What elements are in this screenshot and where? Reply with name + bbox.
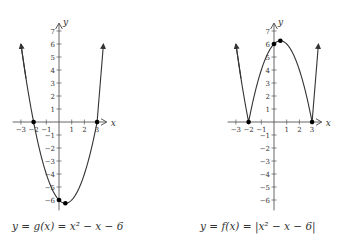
x-tick-label: −3	[16, 126, 26, 134]
x-axis-label: x	[111, 118, 116, 128]
marked-point-vertex	[63, 201, 68, 206]
curve-arrow-right	[312, 44, 318, 122]
y-tick-label: −1	[260, 132, 270, 140]
curve-arrow-left	[21, 44, 26, 78]
y-tick-label: 6	[51, 41, 56, 49]
y-tick-label: −1	[45, 132, 55, 140]
y-tick-label: 2	[266, 93, 270, 101]
y-tick-label: 5	[51, 54, 55, 62]
marked-point-y-intercept	[57, 198, 62, 203]
y-tick-label: −2	[45, 145, 55, 153]
x-tick-label: −2	[28, 126, 38, 134]
x-tick-label: −2	[243, 126, 253, 134]
marked-point-root	[31, 120, 36, 125]
marked-point-root	[95, 120, 100, 125]
y-axis-label: y	[62, 17, 69, 27]
marked-point-root	[310, 120, 315, 125]
y-tick-label: 3	[51, 80, 55, 88]
y-tick-label: −6	[260, 197, 271, 205]
x-tick-label: −3	[231, 126, 241, 134]
y-tick-label: 4	[266, 67, 271, 75]
function-graphs: −3−2−11237654321−1−2−3−4−5−6xy −3−2−1123…	[0, 0, 339, 245]
graph-g-of-x: −3−2−11237654321−1−2−3−4−5−6xy	[13, 17, 116, 210]
y-tick-label: 1	[266, 106, 270, 114]
caption-f-of-x: y = f(x) = |x² − x − 6|	[200, 220, 316, 232]
y-tick-label: 6	[266, 41, 271, 49]
marked-point-local-max	[278, 38, 283, 43]
x-tick-label: 2	[82, 126, 86, 134]
y-tick-label: 3	[266, 80, 270, 88]
y-tick-label: −6	[45, 197, 56, 205]
y-tick-label: −3	[45, 158, 55, 166]
y-tick-label: 7	[266, 28, 270, 36]
y-tick-label: 2	[51, 93, 55, 101]
marked-point-y-intercept	[272, 42, 277, 47]
x-axis-label: x	[326, 118, 331, 128]
x-tick-label: 2	[297, 126, 301, 134]
y-axis-label: y	[277, 17, 284, 27]
x-tick-label: 1	[284, 126, 288, 134]
x-tick-label: 3	[310, 126, 314, 134]
y-tick-label: 1	[51, 106, 55, 114]
y-tick-label: −5	[260, 184, 270, 192]
y-tick-label: −4	[260, 171, 271, 179]
curve-arrow-right	[97, 44, 103, 122]
y-tick-label: 4	[51, 67, 56, 75]
graph-f-of-x: −3−2−11237654321−1−2−3−4−5−6xy	[228, 17, 331, 210]
marked-point-root	[246, 120, 251, 125]
y-tick-label: 7	[51, 28, 55, 36]
caption-g-of-x: y = g(x) = x² − x − 6	[12, 220, 123, 232]
y-tick-label: −3	[260, 158, 270, 166]
y-tick-label: −2	[260, 145, 270, 153]
x-tick-label: 1	[69, 126, 73, 134]
curve-arrow-left	[236, 44, 241, 78]
